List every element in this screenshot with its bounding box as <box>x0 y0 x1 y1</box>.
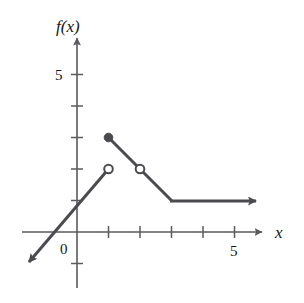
y-axis-label: f(x) <box>56 17 80 36</box>
filled-point-marker <box>104 133 113 142</box>
plot-svg: f(x) x 0 5 5 <box>0 0 304 303</box>
function-graph-figure: f(x) x 0 5 5 <box>0 0 304 303</box>
x-tick-label-5: 5 <box>230 243 238 259</box>
x-axis-label: x <box>274 223 283 242</box>
increasing-ray-segment <box>29 169 109 262</box>
origin-label: 0 <box>60 241 68 257</box>
open-point-left-marker <box>104 165 113 174</box>
open-point-mid-marker <box>136 165 145 174</box>
y-tick-label-5: 5 <box>55 67 63 83</box>
